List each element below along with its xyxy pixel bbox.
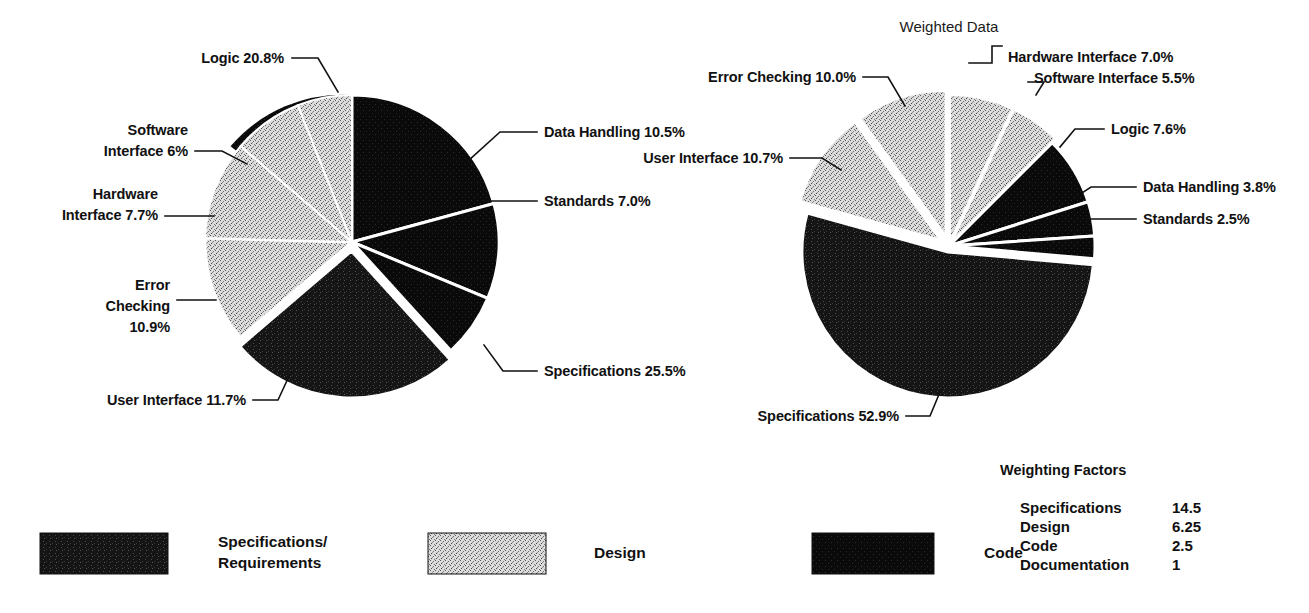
label-left-data-handling: Data Handling 10.5% — [544, 124, 685, 140]
weighting-factors-row: Design 6.25 — [1020, 518, 1201, 535]
label-left-user-interface: User Interface 11.7% — [107, 392, 246, 408]
label-right-standards: Standards 2.5% — [1143, 211, 1250, 227]
label-left-error-checking-line3: 10.9% — [129, 319, 170, 335]
weighting-factors-table: Weighting Factors Specifications 14.5 De… — [1000, 462, 1201, 573]
right-pie-wedges — [800, 90, 1095, 397]
label-right-software-interface: Software Interface 5.5% — [1034, 70, 1195, 86]
right-chart-title: Weighted Data — [900, 18, 1000, 35]
pie-charts-figure: Logic 20.8% Software Interface 6% Hardwa… — [0, 0, 1309, 613]
wf-row-1-name: Design — [1020, 518, 1070, 535]
wf-row-0-name: Specifications — [1020, 499, 1122, 516]
label-left-software-interface-line2: Interface 6% — [104, 143, 188, 159]
leader-right-data-handling — [1082, 187, 1136, 193]
legend-label-specifications-line2: Requirements — [218, 554, 321, 571]
weighting-factors-row: Documentation 1 — [1020, 556, 1180, 573]
label-left-error-checking-line2: Checking — [106, 298, 170, 314]
wf-row-0-value: 14.5 — [1172, 499, 1201, 516]
legend-item-code[interactable]: Code — [812, 533, 1023, 574]
label-right-hardware-interface: Hardware Interface 7.0% — [1008, 49, 1174, 65]
label-left-software-interface-line1: Software — [128, 122, 188, 138]
legend-swatch-code — [812, 533, 934, 574]
legend-item-design[interactable]: Design — [428, 533, 646, 574]
figure-canvas: Logic 20.8% Software Interface 6% Hardwa… — [0, 0, 1309, 613]
label-left-error-checking-line1: Error — [135, 277, 170, 293]
label-right-logic: Logic 7.6% — [1111, 121, 1186, 137]
wf-row-1-value: 6.25 — [1172, 518, 1201, 535]
label-left-specifications: Specifications 25.5% — [544, 363, 686, 379]
label-left-logic: Logic 20.8% — [201, 50, 284, 66]
left-pie-wedges — [205, 95, 499, 398]
label-left-hardware-interface-line1: Hardware — [93, 186, 158, 202]
label-right-user-interface: User Interface 10.7% — [643, 150, 783, 166]
label-right-data-handling: Data Handling 3.8% — [1143, 179, 1276, 195]
weighting-factors-title: Weighting Factors — [1000, 462, 1126, 478]
leader-left-data-handling — [469, 132, 537, 160]
weighting-factors-row: Specifications 14.5 — [1020, 499, 1201, 516]
wf-row-2-name: Code — [1020, 537, 1058, 554]
legend-label-design: Design — [594, 544, 646, 561]
wf-row-3-value: 1 — [1172, 556, 1180, 573]
label-left-standards: Standards 7.0% — [544, 193, 651, 209]
leader-left-specifications — [484, 345, 537, 371]
label-right-specifications: Specifications 52.9% — [758, 408, 900, 424]
legend-swatch-specifications — [40, 533, 168, 574]
chart-legend: Specifications/ Requirements Design Code — [40, 533, 1023, 574]
leader-left-logic — [292, 58, 338, 92]
legend-item-specifications[interactable]: Specifications/ Requirements — [40, 533, 328, 574]
label-left-hardware-interface-line2: Interface 7.7% — [62, 207, 158, 223]
wf-row-3-name: Documentation — [1020, 556, 1129, 573]
legend-swatch-design — [428, 533, 546, 574]
leader-right-hardware-interface — [969, 46, 1002, 63]
legend-label-code: Code — [984, 544, 1023, 561]
weighting-factors-row: Code 2.5 — [1020, 537, 1193, 554]
legend-label-specifications-line1: Specifications/ — [218, 533, 328, 550]
leader-right-logic — [1060, 129, 1104, 147]
wf-row-2-value: 2.5 — [1172, 537, 1193, 554]
label-right-error-checking: Error Checking 10.0% — [708, 69, 856, 85]
